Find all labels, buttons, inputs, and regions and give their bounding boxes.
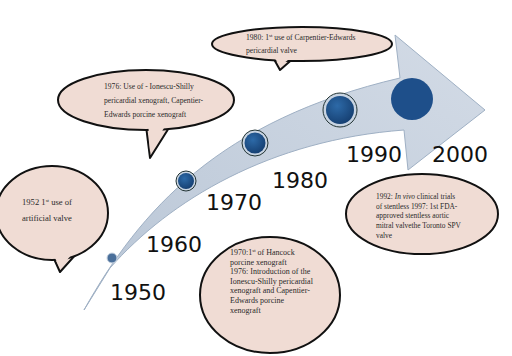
year-label-1950: 1950 (110, 282, 166, 304)
milestone-2000 (391, 78, 433, 120)
milestone-1950 (107, 253, 117, 263)
year-label-1970: 1970 (206, 192, 262, 214)
callout-text-1980: 1980: 1st use of Carpentier-Edwards peri… (246, 32, 376, 58)
timeline-diagram: 1950 1960 1970 1980 1990 2000 1952 1st u… (0, 0, 512, 356)
milestone-1980 (323, 93, 357, 127)
milestone-1970 (242, 130, 268, 156)
callout-text-1976: 1976: Use of - Ionescu-Shilly pericardia… (104, 80, 224, 122)
year-label-1980: 1980 (272, 170, 328, 192)
callout-text-1970: 1970:1st of Hancock porcine xenograft 19… (230, 248, 330, 315)
year-label-1960: 1960 (146, 234, 202, 256)
milestone-1960 (176, 171, 196, 191)
callout-text-1952: 1952 1st use of artificial valve (22, 194, 102, 227)
callout-text-1992: 1992: In vivo clinical trials of stentle… (376, 192, 486, 240)
year-label-2000: 2000 (432, 144, 488, 166)
year-label-1990: 1990 (346, 144, 402, 166)
